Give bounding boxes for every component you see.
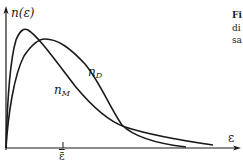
curve-n-m-label-main: n [54, 83, 62, 97]
caption-line-1: Fi [232, 11, 242, 20]
curve-n-d-label: nD [88, 66, 102, 80]
distribution-plot [0, 0, 243, 165]
caption-line-2: di [232, 24, 241, 33]
mean-tick-label: ε̄ [59, 151, 65, 162]
curve-n-m [6, 29, 213, 148]
x-axis-label: ε [228, 132, 234, 144]
caption-line-3: sa [232, 36, 242, 45]
y-axis-label: n(ε) [11, 7, 35, 19]
curve-n-m-label-sub: M [62, 89, 70, 98]
curve-n-m-label: nM [54, 84, 70, 98]
curve-n-d [6, 39, 186, 148]
curve-n-d-label-sub: D [96, 71, 102, 80]
curve-n-d-label-main: n [88, 65, 96, 79]
